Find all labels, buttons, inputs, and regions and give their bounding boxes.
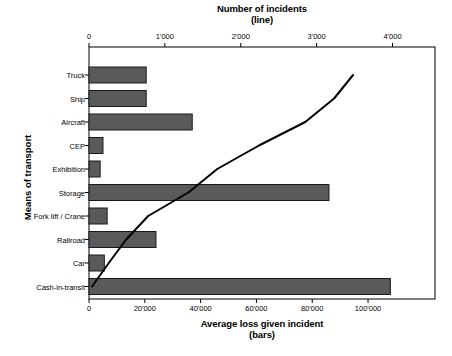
bar-series: [89, 67, 390, 295]
bar: [89, 279, 390, 295]
bar: [89, 91, 146, 107]
bar: [89, 138, 103, 154]
plot-area: [0, 0, 452, 356]
bar: [89, 114, 192, 130]
plot-frame: [89, 47, 435, 299]
bar: [89, 161, 100, 177]
bar: [89, 208, 107, 224]
bar: [89, 255, 104, 271]
plot-frame-rect: [89, 47, 435, 299]
bar: [89, 185, 329, 201]
chart-container: Number of incidents(line) Average loss g…: [0, 0, 452, 356]
bar: [89, 67, 146, 83]
